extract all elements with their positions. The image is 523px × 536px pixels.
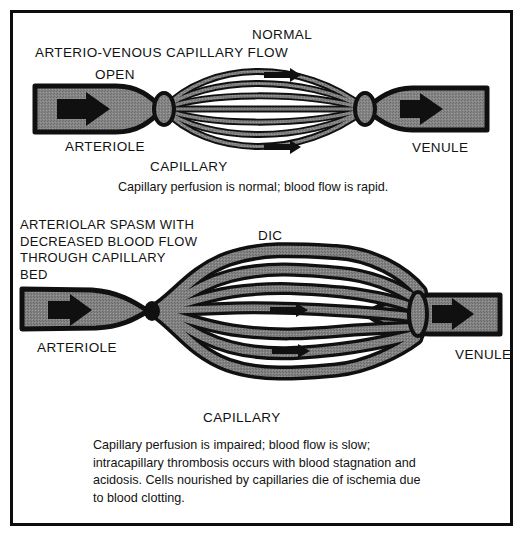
normal-caption: Capillary perfusion is normal; blood flo…	[118, 179, 448, 197]
dic-condition-label: ARTERIOLAR SPASM WITH DECREASED BLOOD FL…	[20, 217, 240, 283]
dic-capillary-label: CAPILLARY	[203, 410, 281, 425]
normal-open-label: OPEN	[95, 67, 135, 82]
normal-panel-title-top: NORMAL	[252, 27, 312, 42]
normal-venule-label: VENULE	[412, 140, 468, 155]
dic-arteriole-label: ARTERIOLE	[37, 340, 117, 355]
normal-arteriole-label: ARTERIOLE	[65, 139, 145, 154]
normal-capillary-label: CAPILLARY	[150, 159, 228, 174]
dic-capillary-flow-figure: NORMAL ARTERIO-VENOUS CAPILLARY FLOW OPE…	[0, 0, 523, 536]
dic-caption: Capillary perfusion is impaired; blood f…	[93, 437, 453, 507]
dic-venule-label: VENULE	[455, 347, 511, 362]
dic-panel-title: DIC	[258, 228, 282, 243]
normal-panel-title-main: ARTERIO-VENOUS CAPILLARY FLOW	[35, 45, 288, 60]
